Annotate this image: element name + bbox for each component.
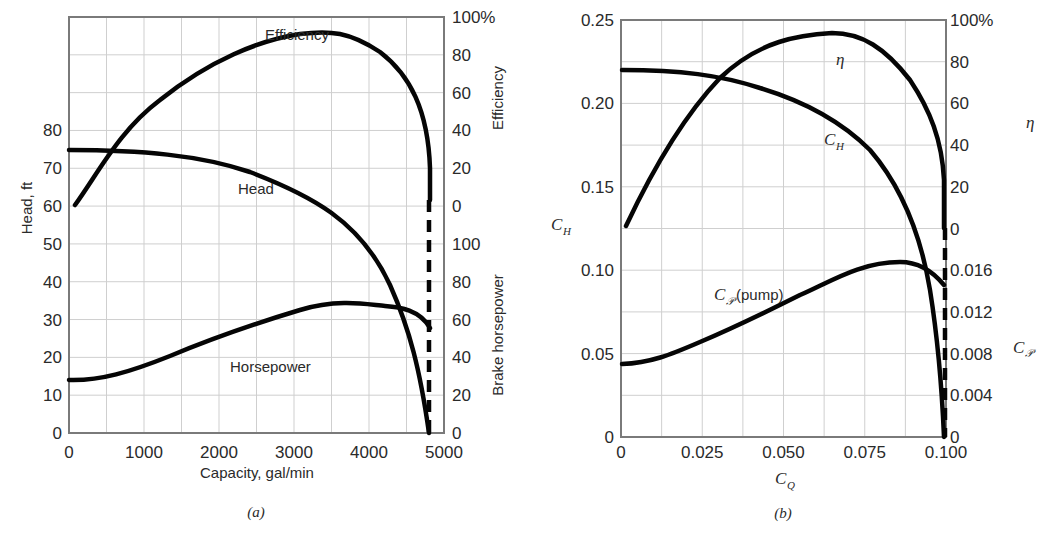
y-axis-label-a: Head, ft [18,181,35,234]
tick-label: 40 [452,121,471,140]
tick-label: 0.100 [925,443,968,462]
tick-label: 80 [43,121,62,140]
svg-text:𝒫: 𝒫 [1025,347,1036,359]
tick-label: 0 [53,424,62,443]
eta-curve [626,33,944,228]
ch-curve-label: C H [824,130,845,152]
svg-text:Q: Q [787,479,795,491]
tick-label: 100% [950,11,993,30]
tick-label: 80 [950,53,969,72]
chart-b-bottom-ticks: 00.0250.0500.0750.100 [616,443,967,462]
tick-label: 10 [43,386,62,405]
tick-label: 60 [43,197,62,216]
tick-label: 40 [452,348,471,367]
tick-label: 70 [43,159,62,178]
right-axis-label-bhp: Brake horsepower [489,274,506,396]
chart-b-right-ticks: 020406080100%00.0040.0080.0120.016 [950,11,993,447]
right-axis-label-cp: C 𝒫 [1013,338,1036,359]
chart-a-bottom-ticks: 010002000300040005000 [64,443,463,462]
tick-label: 0 [616,443,625,462]
x-axis-label-b: C Q [775,469,795,491]
svg-text:C: C [1013,338,1025,357]
chart-a: 01020304050607080 010002000300040005000 … [18,8,506,521]
tick-label: 80 [452,46,471,65]
tick-label: 20 [452,159,471,178]
svg-text:H: H [562,225,572,237]
svg-text:C: C [824,130,836,149]
tick-label: 0.25 [581,11,614,30]
tick-label: 0.012 [950,303,993,322]
tick-label: 3000 [275,443,313,462]
tick-label: 50 [43,235,62,254]
svg-text:C: C [714,285,726,304]
tick-label: 0.10 [581,261,614,280]
tick-label: 0 [452,424,461,443]
tick-label: 0.016 [950,261,993,280]
tick-label: 5000 [425,443,463,462]
tick-label: 20 [950,178,969,197]
tick-label: 40 [43,273,62,292]
figure: 01020304050607080 010002000300040005000 … [0,0,1045,534]
tick-label: 30 [43,311,62,330]
eta-curve-label: η [836,50,844,69]
svg-text:(pump): (pump) [736,286,784,303]
chart-b-left-ticks: 00.050.100.150.200.25 [581,11,614,447]
tick-label: 4000 [350,443,388,462]
svg-text:H: H [835,140,845,152]
tick-label: 60 [452,311,471,330]
head-label: Head [238,180,274,197]
tick-label: 60 [452,84,471,103]
tick-label: 40 [950,136,969,155]
chart-b: 00.050.100.150.200.25 00.0250.0500.0750.… [551,11,1036,522]
tick-label: 0.008 [950,345,993,364]
caption-b: (b) [774,505,792,522]
efficiency-label: Efficiency [265,26,329,43]
tick-label: 0.025 [681,443,724,462]
tick-label: 20 [43,348,62,367]
x-axis-label-a: Capacity, gal/min [200,464,314,481]
svg-text:C: C [775,469,787,488]
right-axis-label-eta: η [1026,113,1034,132]
tick-label: 0.004 [950,386,993,405]
tick-label: 0.05 [581,345,614,364]
tick-label: 2000 [200,443,238,462]
horsepower-label: Horsepower [230,358,311,375]
right-axis-label-efficiency: Efficiency [489,66,506,130]
tick-label: 0.050 [762,443,805,462]
tick-label: 0 [950,428,959,447]
tick-label: 0.075 [843,443,886,462]
tick-label: 60 [950,94,969,113]
tick-label: 0.15 [581,178,614,197]
tick-label: 100 [452,235,480,254]
tick-label: 0 [950,220,959,239]
tick-label: 100% [452,8,495,27]
tick-label: 0 [452,197,461,216]
tick-label: 0.20 [581,94,614,113]
chart-b-grid [621,20,946,437]
tick-label: 1000 [125,443,163,462]
tick-label: 20 [452,386,471,405]
svg-text:C: C [551,215,563,234]
chart-a-left-ticks: 01020304050607080 [43,121,62,443]
y-axis-label-b: C H [551,215,572,237]
tick-label: 80 [452,273,471,292]
cp-curve-label: C 𝒫 (pump) [714,285,784,307]
tick-label: 0 [605,428,614,447]
tick-label: 0 [64,443,73,462]
caption-a: (a) [247,504,265,521]
